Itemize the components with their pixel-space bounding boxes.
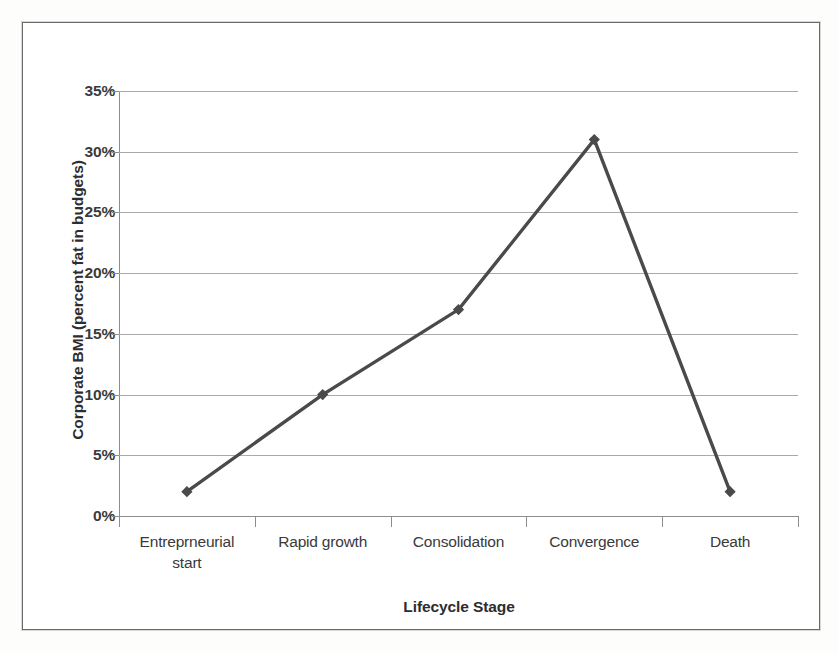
y-axis-tick-mark (112, 152, 119, 153)
y-axis-tick-mark (112, 455, 119, 456)
x-axis-tick-label-line: Death (662, 531, 798, 552)
series-polyline (187, 140, 730, 492)
x-axis-tick-label: Rapid growth (255, 531, 391, 552)
y-axis-tick-label: 0% (63, 507, 115, 525)
y-axis-tick-mark (112, 212, 119, 213)
page-background: Corporate BMI (percent fat in budgets) 0… (0, 0, 838, 653)
x-axis-tick-mark (662, 517, 663, 527)
y-axis-tick-label: 15% (63, 325, 115, 343)
y-axis-tick-label: 20% (63, 264, 115, 282)
y-axis-tick-label: 25% (63, 203, 115, 221)
x-axis-title: Lifecycle Stage (119, 598, 799, 616)
y-axis-tick-label: 30% (63, 143, 115, 161)
y-axis-tick-mark (112, 334, 119, 335)
y-axis-tick-label: 5% (63, 446, 115, 464)
x-axis-tick-label: Consolidation (391, 531, 527, 552)
data-series-line (119, 91, 798, 516)
y-axis-tick-mark (112, 516, 119, 517)
data-point-marker (725, 486, 736, 497)
x-axis-tick-label-line: Convergence (526, 531, 662, 552)
x-axis-tick-mark (119, 517, 120, 527)
x-axis-tick-label: Entreprneurialstart (119, 531, 255, 573)
x-axis-tick-label: Convergence (526, 531, 662, 552)
x-axis-tick-labels: EntreprneurialstartRapid growthConsolida… (119, 531, 799, 593)
y-axis-tick-label: 10% (63, 386, 115, 404)
plot-area (119, 91, 798, 516)
x-axis-line (119, 516, 799, 517)
x-axis-tick-mark (255, 517, 256, 527)
x-axis-tick-label-line: Rapid growth (255, 531, 391, 552)
x-axis-tick-label-line: start (119, 552, 255, 573)
chart-figure-frame: Corporate BMI (percent fat in budgets) 0… (22, 22, 820, 630)
y-axis-tick-mark (112, 273, 119, 274)
y-axis-tick-mark (112, 395, 119, 396)
x-axis-tick-label-line: Entreprneurial (119, 531, 255, 552)
y-axis-tick-labels: 0%5%10%15%20%25%30%35% (63, 91, 115, 538)
y-axis-tick-label: 35% (63, 82, 115, 100)
x-axis-tick-mark (526, 517, 527, 527)
x-axis-tick-mark (798, 517, 799, 527)
x-axis-tick-label: Death (662, 531, 798, 552)
x-axis-tick-label-line: Consolidation (391, 531, 527, 552)
y-axis-tick-mark (112, 91, 119, 92)
x-axis-tick-mark (391, 517, 392, 527)
